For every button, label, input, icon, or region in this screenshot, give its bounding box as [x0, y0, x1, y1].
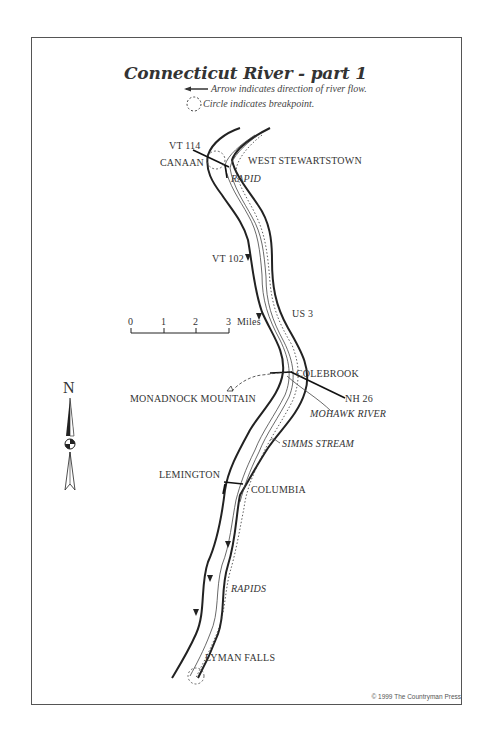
- label-vt102: VT 102: [212, 253, 244, 264]
- north-arrow-icon: [65, 398, 75, 490]
- legend-arrow-text: Arrow indicates direction of river flow.: [211, 83, 367, 94]
- map-title: Connecticut River - part 1: [124, 63, 367, 83]
- copyright: © 1999 The Countryman Press: [371, 693, 461, 700]
- scale-tick-1: 1: [161, 316, 166, 327]
- legend-arrow-icon: [184, 87, 208, 92]
- north-label: N: [63, 379, 75, 397]
- label-monadnock-mountain: MONADNOCK MOUNTAIN: [130, 393, 256, 404]
- label-colebrook: COLEBROOK: [296, 368, 359, 379]
- scale-tick-3: 3: [226, 316, 231, 327]
- label-columbia: COLUMBIA: [251, 484, 306, 495]
- river-channels: [190, 135, 293, 676]
- label-nh26: NH 26: [345, 393, 373, 404]
- label-us3: US 3: [292, 308, 313, 319]
- label-simms-stream: SIMMS STREAM: [282, 438, 354, 449]
- scale-unit: Miles: [237, 316, 261, 327]
- label-lyman-falls: LYMAN FALLS: [205, 652, 275, 663]
- railroad: [196, 135, 298, 678]
- legend-circle-icon: [187, 97, 201, 111]
- flow-arrow-icons: [193, 254, 262, 616]
- legend-circle-text: Circle indicates breakpoint.: [203, 98, 314, 109]
- label-vt114: VT 114: [169, 140, 200, 151]
- label-rapid: RAPID: [231, 173, 261, 184]
- label-lemington: LEMINGTON: [159, 469, 220, 480]
- scale-tick-2: 2: [193, 316, 198, 327]
- label-canaan: CANAAN: [160, 157, 204, 168]
- mountain-icon: [227, 386, 233, 391]
- scale-bar: [131, 328, 229, 333]
- label-west-stewartstown: WEST STEWARTSTOWN: [248, 155, 362, 166]
- label-mohawk-river: MOHAWK RIVER: [310, 408, 386, 419]
- map-drawing: [0, 0, 488, 746]
- label-rapids: RAPIDS: [231, 583, 266, 594]
- scale-tick-0: 0: [128, 316, 133, 327]
